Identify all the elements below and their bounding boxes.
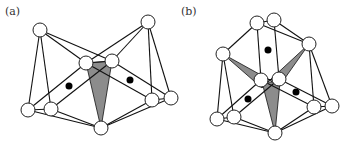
bond-edge	[274, 20, 279, 79]
vertex-node	[250, 16, 264, 30]
center-atom-dot	[245, 96, 252, 103]
bond-edge	[101, 98, 171, 128]
vertex-node	[268, 126, 282, 140]
shaded-face	[262, 82, 280, 133]
bond-edge	[28, 110, 101, 128]
bond-edge	[28, 30, 40, 110]
bond-edge	[275, 106, 332, 133]
vertex-node	[44, 102, 58, 116]
panel-a-label: (a)	[5, 5, 20, 18]
vertex-node	[267, 13, 281, 27]
vertex-node	[105, 54, 119, 68]
vertex-node	[145, 93, 159, 107]
bond-edge	[223, 54, 234, 117]
bond-edge	[101, 100, 152, 128]
center-atom-dot	[66, 83, 73, 90]
panel-b-label: (b)	[181, 5, 197, 18]
bond-edge	[217, 54, 223, 119]
vertex-node	[210, 112, 224, 126]
bond-edge	[28, 63, 86, 110]
center-atom-dot	[293, 89, 300, 96]
vertex-node	[272, 72, 286, 86]
bond-edge	[112, 22, 148, 61]
vertex-node	[94, 121, 108, 135]
vertex-node	[307, 100, 321, 114]
bond-edge	[309, 44, 332, 106]
vertex-node	[325, 99, 339, 113]
vertex-node	[21, 103, 35, 117]
bond-edge	[51, 109, 101, 128]
vertex-node	[254, 73, 268, 87]
vertex-node	[164, 91, 178, 105]
panel-b-structure: (b)	[181, 5, 339, 140]
polyhedra-diagram: (a) (b)	[0, 0, 350, 145]
center-atom-dot	[127, 77, 134, 84]
vertex-node	[302, 37, 316, 51]
bond-edge	[40, 30, 51, 109]
vertex-node	[79, 56, 93, 70]
vertex-node	[141, 15, 155, 29]
vertex-node	[227, 110, 241, 124]
bond-edge	[309, 44, 314, 107]
center-atom-dot	[265, 47, 272, 54]
bond-edge	[257, 23, 261, 80]
panel-a-structure: (a)	[5, 5, 178, 135]
bond-edge	[112, 61, 171, 98]
vertex-node	[33, 23, 47, 37]
vertex-node	[216, 47, 230, 61]
